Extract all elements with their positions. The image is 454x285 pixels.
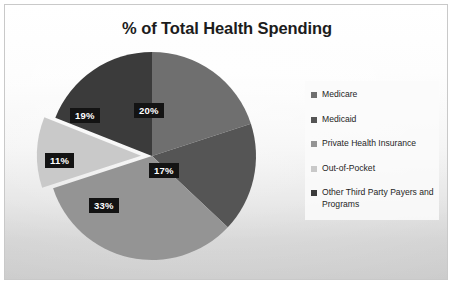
pie-label-medicare: 20% [134, 103, 164, 118]
pie-chart-plot-area: 20% 17% 33% 11% 19% [21, 43, 281, 271]
legend-item-out-of-pocket[interactable]: Out-of-Pocket [311, 163, 435, 175]
legend-item-private-health-insurance[interactable]: Private Health Insurance [311, 138, 435, 150]
legend-swatch-icon [311, 117, 317, 123]
legend-item-medicaid[interactable]: Medicaid [311, 114, 435, 126]
legend-swatch-icon [311, 166, 317, 172]
legend-item-other-third-party[interactable]: Other Third Party Payers and Programs [311, 187, 435, 210]
legend-item-label: Other Third Party Payers and Programs [322, 187, 435, 210]
pie-label-private-health-insurance: 33% [89, 198, 119, 213]
pie-label-medicaid: 17% [149, 163, 179, 178]
legend-item-label: Medicaid [322, 114, 356, 126]
legend-item-medicare[interactable]: Medicare [311, 89, 435, 101]
slide-frame: % of Total Health Spending 20% 17% 33% 1… [4, 4, 448, 280]
chart-legend: Medicare Medicaid Private Health Insuran… [305, 81, 439, 220]
chart-title: % of Total Health Spending [5, 19, 448, 38]
legend-swatch-icon [311, 141, 317, 147]
legend-swatch-icon [311, 190, 317, 196]
legend-swatch-icon [311, 92, 317, 98]
legend-item-label: Out-of-Pocket [322, 163, 375, 175]
pie-label-out-of-pocket: 11% [45, 153, 74, 168]
legend-item-label: Medicare [322, 89, 357, 101]
pie-label-other-third-party: 19% [70, 108, 100, 123]
legend-item-label: Private Health Insurance [322, 138, 416, 150]
